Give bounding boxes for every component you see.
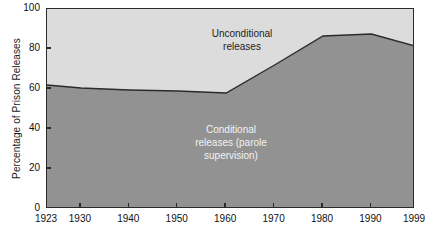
y-tick-label: 0 [6, 203, 40, 213]
x-tick-mark [321, 203, 323, 208]
unconditional-releases-label: Unconditional releases [182, 27, 302, 53]
y-tick-label: 40 [6, 123, 40, 133]
prison-releases-area-chart: Percentage of Prison Releases Unconditio… [0, 0, 427, 238]
plot-area: Unconditional releases Conditional relea… [46, 8, 414, 208]
y-tick-mark [46, 47, 51, 49]
x-tick-label: 1970 [252, 214, 296, 224]
y-axis-title: Percentage of Prison Releases [11, 9, 22, 209]
x-tick-mark [128, 203, 130, 208]
x-tick-mark [370, 203, 372, 208]
y-tick-label: 80 [6, 43, 40, 53]
x-tick-label: 1950 [155, 214, 199, 224]
x-tick-mark [79, 203, 81, 208]
x-tick-mark [273, 203, 275, 208]
y-tick-label: 100 [6, 3, 40, 13]
y-tick-mark [46, 87, 51, 89]
y-tick-mark [46, 127, 51, 129]
x-tick-label: 1940 [106, 214, 150, 224]
x-tick-label: 1980 [300, 214, 344, 224]
x-tick-label: 1930 [58, 214, 102, 224]
y-tick-mark [46, 167, 51, 169]
x-tick-label: 1999 [392, 214, 427, 224]
x-tick-mark [224, 203, 226, 208]
conditional-releases-area [47, 34, 414, 208]
y-tick-label: 60 [6, 83, 40, 93]
y-tick-label: 20 [6, 163, 40, 173]
x-tick-label: 1990 [348, 214, 392, 224]
x-tick-mark [176, 203, 178, 208]
x-tick-label: 1960 [203, 214, 247, 224]
conditional-releases-label: Conditional releases (parole supervision… [171, 123, 291, 162]
